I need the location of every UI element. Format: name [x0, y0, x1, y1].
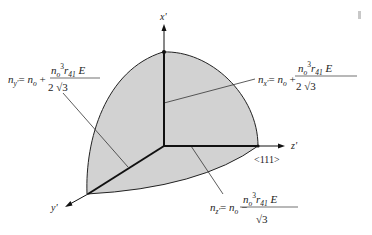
ellipsoid-octant-surface — [87, 52, 258, 194]
ny-denominator: 2 √3 — [48, 81, 68, 93]
svg-text:nx'= no +: nx'= no + — [258, 73, 296, 88]
nx-denominator: 2 √3 — [296, 80, 316, 92]
z-direction-label: <111> — [254, 154, 280, 165]
y-axis-arrow-icon — [65, 201, 73, 207]
nz-equation: nz'= no − no3r41 E √3 — [210, 191, 298, 225]
x-axis-label: x' — [159, 11, 167, 22]
nz-denominator: √3 — [256, 213, 268, 225]
nx-numerator: no3r41 E — [298, 60, 333, 77]
x-axis-vertex-dot — [162, 50, 166, 54]
ny-equation: ny'= no + no3r41 E 2 √3 — [8, 62, 100, 93]
svg-text:nz'= no −: nz'= no − — [210, 201, 247, 216]
scan-artifact-mark — [358, 11, 361, 19]
z-axis-arrow-icon — [278, 144, 285, 149]
nx-equation: nx'= no + no3r41 E 2 √3 — [258, 60, 357, 92]
ny-numerator: no3r41 E — [51, 62, 86, 79]
z-axis-vertex-dot — [256, 144, 259, 147]
z-axis-label: z' — [290, 140, 298, 151]
x-axis-arrow-icon — [162, 24, 167, 31]
index-ellipsoid-diagram: x' z' <111> y' ny'= no + no3r41 E 2 √3 n… — [0, 0, 372, 235]
svg-text:ny'= no +: ny'= no + — [8, 73, 46, 88]
y-axis-label: y' — [50, 202, 58, 213]
nz-numerator: no3r41 E — [243, 191, 278, 208]
